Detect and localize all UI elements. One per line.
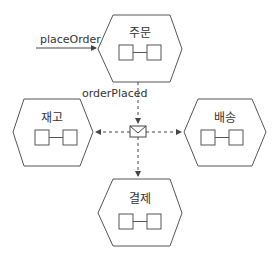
service-shipping: 배송 bbox=[184, 99, 266, 166]
service-inventory: 재고 bbox=[13, 99, 93, 166]
edge-place-order-label: placeOrder bbox=[40, 33, 101, 46]
service-inventory-label: 재고 bbox=[41, 111, 63, 125]
service-order-label: 주문 bbox=[129, 26, 151, 40]
architecture-diagram: 주문 재고 배송 결제 bbox=[0, 0, 276, 260]
envelope-icon bbox=[130, 126, 146, 137]
service-shipping-label: 배송 bbox=[214, 111, 236, 125]
service-payment: 결제 bbox=[98, 179, 182, 246]
edge-place-order: placeOrder bbox=[36, 33, 101, 48]
service-payment-label: 결제 bbox=[129, 192, 151, 206]
edge-order-placed: orderPlaced bbox=[82, 82, 148, 123]
service-order: 주문 bbox=[98, 15, 182, 82]
edge-order-placed-label: orderPlaced bbox=[82, 87, 148, 100]
